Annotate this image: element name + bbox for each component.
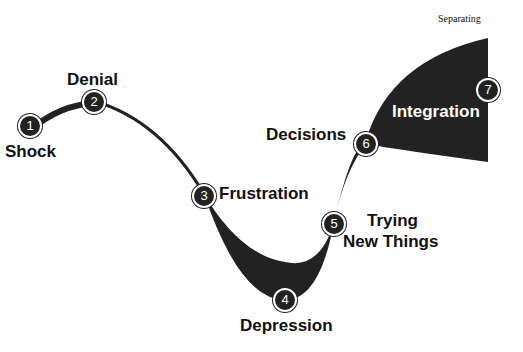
stage-6-marker: 6 <box>354 132 378 156</box>
stage-4-marker: 4 <box>273 288 297 312</box>
stage-3-marker: 3 <box>192 184 216 208</box>
curve-shape <box>0 0 523 352</box>
change-curve-diagram: Separating 1 Shock 2 Denial 3 Frustratio… <box>0 0 523 352</box>
stage-3-label: Frustration <box>219 184 309 203</box>
stage-2-marker: 2 <box>82 90 106 114</box>
stage-1-label: Shock <box>5 142 56 161</box>
stage-7-label: Integration <box>392 102 480 121</box>
stage-5-label: Trying <box>367 211 418 230</box>
stage-2-label: Denial <box>67 70 118 89</box>
stage-5-label-line2: New Things <box>343 232 438 251</box>
stage-4-label: Depression <box>240 316 333 335</box>
stage-1-marker: 1 <box>18 114 42 138</box>
stage-6-label: Decisions <box>266 125 346 144</box>
stage-7-marker: 7 <box>476 78 500 102</box>
diagram-title: Separating <box>438 13 481 24</box>
